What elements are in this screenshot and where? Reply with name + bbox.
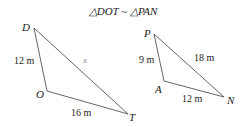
vertex-o: O [36,88,44,100]
side-pa-label: 9 m [139,54,155,65]
triangle-pan-shape [154,34,224,97]
vertex-p: P [143,27,151,39]
side-dt-label: x [82,55,87,65]
triangle-dot: D O T 12 m 16 m x [14,21,136,123]
triangle-pan: P A N 9 m 12 m 18 m [139,27,235,106]
side-do-label: 12 m [14,55,35,66]
similarity-statement: △DOT ~ △PAN [88,5,158,17]
triangle-dot-shape [34,28,128,114]
vertex-n: N [226,94,235,106]
vertex-d: D [21,21,30,33]
side-pn-label: 18 m [194,52,215,63]
side-an-label: 12 m [182,93,203,104]
side-ot-label: 16 m [71,107,92,118]
vertex-t: T [129,111,136,123]
similar-triangles-diagram: △DOT ~ △PAN D O T 12 m 16 m x P A N 9 m … [0,0,247,127]
vertex-a: A [154,83,162,95]
